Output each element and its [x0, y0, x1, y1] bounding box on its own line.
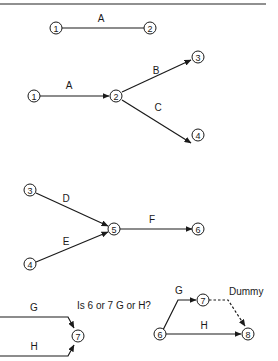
edge-d	[36, 193, 108, 226]
node-4: 4	[24, 258, 36, 270]
svg-text:8: 8	[245, 330, 250, 340]
svg-text:1: 1	[53, 24, 58, 34]
edge-label-g: G	[175, 285, 183, 296]
node-7: 7	[72, 330, 84, 342]
node-2: 2	[110, 90, 122, 102]
svg-text:2: 2	[147, 24, 152, 34]
node-7: 7	[197, 294, 209, 306]
edge-g	[0, 317, 74, 328]
panel-4: G H 7	[0, 302, 84, 356]
svg-text:5: 5	[111, 225, 116, 235]
node-1: 1	[28, 90, 40, 102]
svg-text:6: 6	[195, 225, 200, 235]
svg-text:4: 4	[27, 260, 32, 270]
svg-text:3: 3	[27, 186, 32, 196]
edge-label-b: B	[153, 65, 160, 76]
edge-label-e: E	[63, 236, 70, 247]
panel-3: D E F 3 5 6 4	[24, 184, 204, 270]
svg-text:3: 3	[195, 53, 200, 63]
edge-label-g: G	[30, 302, 38, 313]
node-3: 3	[192, 51, 204, 63]
edge-label-f: F	[149, 214, 155, 225]
panel-1: A 1 2	[50, 13, 156, 34]
panel-5: G H Dummy 6 7 8	[154, 285, 263, 340]
node-5: 5	[108, 223, 120, 235]
svg-text:7: 7	[75, 332, 80, 342]
edge-label-a: A	[98, 13, 105, 24]
network-diagram: A 1 2 A B C 1 2 3 4 D E F 3 5 6 4 G H 7 …	[0, 0, 278, 361]
panel-2: A B C 1 2 3 4	[28, 51, 204, 143]
svg-text:7: 7	[200, 296, 205, 306]
edge-label-a: A	[66, 80, 73, 91]
question-text: Is 6 or 7 G or H?	[77, 300, 151, 311]
edge-label-h: H	[30, 341, 37, 352]
svg-text:2: 2	[113, 92, 118, 102]
edge-e	[36, 232, 108, 262]
edge-label-d: D	[62, 193, 69, 204]
node-8: 8	[242, 328, 254, 340]
node-4: 4	[192, 129, 204, 141]
svg-text:4: 4	[195, 131, 200, 141]
svg-text:1: 1	[31, 92, 36, 102]
edge-g	[162, 300, 196, 332]
node-2: 2	[144, 22, 156, 34]
edge-dummy	[209, 300, 245, 326]
edge-label-c: C	[154, 102, 161, 113]
node-6: 6	[192, 223, 204, 235]
node-1: 1	[50, 22, 62, 34]
node-3: 3	[24, 184, 36, 196]
node-6: 6	[154, 328, 166, 340]
edge-label-h: H	[200, 320, 207, 331]
edge-label-dummy: Dummy	[229, 286, 263, 297]
svg-text:6: 6	[157, 330, 162, 340]
